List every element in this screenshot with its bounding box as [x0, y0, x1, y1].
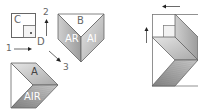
label-step-2: 2 — [43, 8, 49, 17]
arrow-step-2 — [45, 19, 49, 36]
folded-result — [145, 5, 199, 87]
arrow-left — [162, 5, 180, 9]
label-a: A — [31, 67, 38, 77]
label-air: AIR — [24, 92, 41, 102]
arrow-step-1 — [14, 47, 32, 51]
label-d: D — [37, 37, 45, 47]
label-b: B — [77, 16, 84, 26]
label-c: C — [14, 15, 21, 25]
arrow-up — [145, 27, 149, 43]
arrow-step-3 — [49, 51, 61, 62]
small-square — [164, 26, 176, 38]
label-step-3: 3 — [63, 63, 69, 72]
corner-d-square — [24, 26, 36, 38]
label-ai: AI — [87, 34, 97, 44]
label-ar: AR — [65, 34, 79, 44]
corner-dot — [30, 32, 32, 34]
label-step-1: 1 — [6, 44, 12, 53]
